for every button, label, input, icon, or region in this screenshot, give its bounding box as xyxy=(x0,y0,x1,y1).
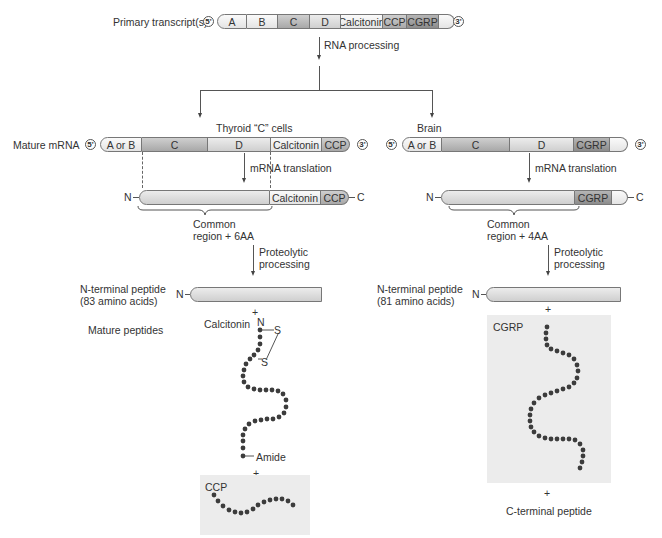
plus-sign: + xyxy=(544,487,550,499)
common-region-line1: Common xyxy=(193,218,236,230)
arrowhead-icon xyxy=(198,113,202,118)
exon-b: B xyxy=(247,14,278,29)
amide-label: Amide xyxy=(256,451,286,463)
nterm-peptide-bar xyxy=(486,287,621,302)
nterm-label-line1: N-terminal peptide xyxy=(377,283,463,295)
exon-c: C xyxy=(278,14,310,29)
three-prime-marker: 3' xyxy=(357,139,368,150)
proteolytic-line2: processing xyxy=(554,258,605,270)
three-prime-marker: 3' xyxy=(453,16,464,27)
proteolytic-arrow xyxy=(253,245,254,272)
plus-sign: + xyxy=(545,303,551,315)
mature-mrna-label: Mature mRNA xyxy=(13,139,80,151)
calcitonin-chain xyxy=(230,320,320,460)
translation-label: mRNA translation xyxy=(250,162,332,174)
c-terminus-label: C xyxy=(636,191,644,203)
calcitonin-segment: Calcitonin xyxy=(270,190,321,205)
c-terminus-label: C xyxy=(357,191,365,203)
nterm-peptide xyxy=(190,287,322,302)
exon-cgrp: CGRP xyxy=(407,14,439,29)
common-region-line1: Common xyxy=(487,218,530,230)
three-prime-marker: 3' xyxy=(635,139,646,150)
primary-transcript-label: Primary transcript(s) xyxy=(113,16,208,28)
five-prime-marker: 5' xyxy=(386,139,397,150)
branch-stem xyxy=(319,66,320,90)
exon-c: C xyxy=(142,137,208,152)
nterm-label-line2: (81 amino acids) xyxy=(377,295,455,307)
exon-a-or-b: A or B xyxy=(100,137,142,152)
exon-ccp: CCP xyxy=(322,137,350,152)
exon-d: D xyxy=(310,14,341,29)
exon-c: C xyxy=(442,137,510,152)
five-prime-marker: 5' xyxy=(203,16,214,27)
brain-mrna-bar: A or B C D CGRP xyxy=(402,137,628,152)
brain-protein-bar: CGRP xyxy=(441,190,628,205)
proteolytic-line1: Proteolytic xyxy=(554,246,603,258)
mature-peptides-label: Mature peptides xyxy=(88,324,163,336)
exon-tail xyxy=(610,137,628,152)
nterm-n: N xyxy=(472,288,480,300)
exon-d: D xyxy=(510,137,574,152)
ccp-segment: CCP xyxy=(321,190,349,205)
nterm-label-line2: (83 amino acids) xyxy=(80,295,158,307)
thyroid-protein-bar: Calcitonin CCP xyxy=(139,190,349,205)
tail-segment xyxy=(612,190,628,205)
arrowhead-icon xyxy=(527,178,531,183)
cgrp-chain xyxy=(487,315,611,483)
branch-right xyxy=(432,90,433,115)
exon-d: D xyxy=(208,137,271,152)
nterm-label-line1: N-terminal peptide xyxy=(80,283,166,295)
c-connector xyxy=(628,197,634,198)
arrowhead-icon xyxy=(317,55,321,60)
proteolytic-arrow xyxy=(548,245,549,272)
brain-title: Brain xyxy=(417,122,442,134)
primary-transcript-bar: A B C D Calcitonin CCP CGRP xyxy=(217,14,455,29)
exon-calcitonin: Calcitonin xyxy=(271,137,322,152)
branch-bar xyxy=(200,90,432,91)
n-terminus-label: N xyxy=(124,191,132,203)
proteolytic-line2: processing xyxy=(259,258,310,270)
cgrp-segment: CGRP xyxy=(575,190,612,205)
common-region-segment xyxy=(139,190,270,205)
nterm-n: N xyxy=(176,288,184,300)
ccp-chain xyxy=(200,475,310,535)
translation-label: mRNA translation xyxy=(535,162,617,174)
branch-left xyxy=(200,90,201,115)
guide-dash xyxy=(142,152,143,188)
translation-arrow xyxy=(529,153,530,179)
arrowhead-icon xyxy=(430,113,434,118)
nterm-peptide xyxy=(486,287,621,302)
common-region-brace xyxy=(137,205,273,217)
proteolytic-line1: Proteolytic xyxy=(259,246,308,258)
arrowhead-icon xyxy=(546,271,550,276)
exon-a-or-b: A or B xyxy=(402,137,442,152)
exon-a: A xyxy=(217,14,247,29)
exon-cgrp: CGRP xyxy=(574,137,610,152)
common-region-segment xyxy=(441,190,575,205)
thyroid-mrna-bar: A or B C D Calcitonin CCP xyxy=(100,137,350,152)
rna-processing-arrow xyxy=(319,37,320,56)
arrowhead-icon xyxy=(251,271,255,276)
c-terminal-peptide-label: C-terminal peptide xyxy=(506,505,592,517)
thyroid-title: Thyroid “C” cells xyxy=(216,122,292,134)
rna-processing-label: RNA processing xyxy=(324,39,399,51)
five-prime-marker: 5' xyxy=(85,139,96,150)
translation-arrow xyxy=(244,153,245,179)
common-region-line2: region + 4AA xyxy=(487,230,548,242)
nterm-peptide-bar xyxy=(190,287,322,302)
n-terminus-label: N xyxy=(426,191,434,203)
exon-ccp: CCP xyxy=(383,14,407,29)
arrowhead-icon xyxy=(242,178,246,183)
c-connector xyxy=(349,197,355,198)
common-region-line2: region + 6AA xyxy=(193,230,254,242)
exon-calcitonin: Calcitonin xyxy=(341,14,383,29)
common-region-brace xyxy=(448,205,580,217)
